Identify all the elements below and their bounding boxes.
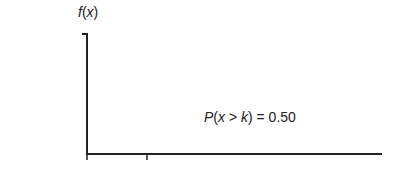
exponential-probability-chart: f(x) P(x > k) = 0.50 [0,0,418,190]
plot-area [0,0,418,190]
annotation-line-3: P(x > k) = 0.50 [204,109,296,125]
y-axis-label: f(x) [78,4,98,20]
